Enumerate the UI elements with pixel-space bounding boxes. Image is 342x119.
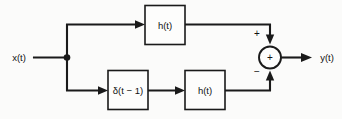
- block-delay-delta[interactable]: δ(t − 1): [108, 71, 148, 110]
- block-label-delay-delta: δ(t − 1): [113, 85, 143, 96]
- arrowhead-into-output: [301, 53, 312, 62]
- wire-bottom-block-to-summer: [225, 77, 270, 91]
- summing-junction-inner-symbol: +: [267, 52, 273, 63]
- arrowhead-into-summer-top: [266, 35, 274, 45]
- arrowhead-into-delay-block: [98, 86, 108, 94]
- input-signal-label: x(t): [12, 52, 26, 63]
- block-label-bottom-impulse-response: h(t): [198, 85, 212, 96]
- block-diagram-canvas: h(t) δ(t − 1) h(t) + + − x(t) y(t): [0, 0, 342, 119]
- block-bottom-impulse-response[interactable]: h(t): [185, 71, 225, 110]
- wire-split-to-top-branch: [67, 25, 139, 58]
- arrowhead-into-bottom-block: [175, 86, 185, 94]
- summing-junction-minus-sign: −: [254, 66, 260, 77]
- output-signal-label: y(t): [320, 52, 334, 63]
- block-label-top-impulse-response: h(t): [158, 20, 172, 31]
- block-top-impulse-response[interactable]: h(t): [145, 6, 185, 45]
- summing-junction-plus-sign: +: [254, 28, 260, 39]
- wire-split-to-bottom-branch: [67, 58, 102, 91]
- arrowhead-into-top-block: [135, 20, 145, 28]
- arrowhead-into-summer-bottom: [266, 71, 274, 81]
- block-diagram-svg: h(t) δ(t − 1) h(t) + + − x(t) y(t): [0, 0, 342, 119]
- summing-junction[interactable]: +: [259, 47, 281, 69]
